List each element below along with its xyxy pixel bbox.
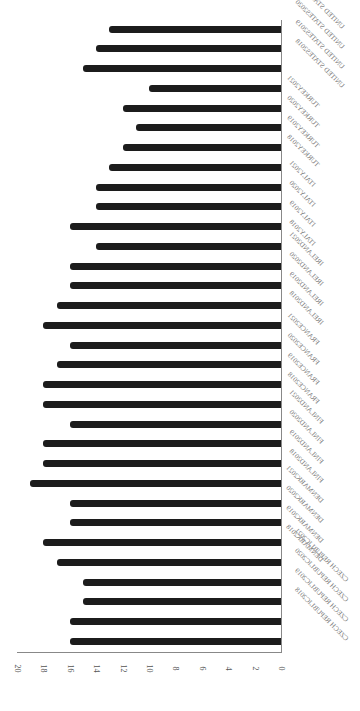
tick-label: 16 [65, 662, 74, 676]
bar [43, 460, 281, 467]
bar [123, 105, 281, 112]
tick-label: 2 [250, 662, 259, 676]
tick-label: 8 [171, 662, 180, 676]
bar [57, 302, 281, 309]
bar [149, 85, 281, 92]
bar [109, 26, 281, 33]
bar [96, 203, 281, 210]
tick-label: 20 [13, 662, 22, 676]
tick-label: 6 [197, 662, 206, 676]
bar [43, 322, 281, 329]
bar [43, 401, 281, 408]
tick-label: 10 [145, 662, 154, 676]
bar [57, 361, 281, 368]
bar [70, 342, 281, 349]
bar [96, 243, 281, 250]
bar [123, 144, 281, 151]
value-axis-line [17, 652, 282, 653]
bar [57, 559, 281, 566]
bar [70, 500, 281, 507]
tick-label: 18 [39, 662, 48, 676]
bar [70, 282, 281, 289]
bar [70, 519, 281, 526]
bar [30, 480, 281, 487]
bar [83, 65, 281, 72]
bar [136, 124, 281, 131]
bar [43, 381, 281, 388]
tick-label: 4 [224, 662, 233, 676]
category-axis-line [281, 20, 282, 652]
bar [96, 184, 281, 191]
tick-label: 12 [118, 662, 127, 676]
bar [43, 440, 281, 447]
bar-chart: CZECH REPUBLIC2018CZECH REPUBLIC2019CZEC… [0, 0, 360, 711]
bar [70, 638, 281, 645]
bar [109, 164, 281, 171]
bar [70, 223, 281, 230]
bar [70, 618, 281, 625]
bar [83, 579, 281, 586]
bar [70, 421, 281, 428]
tick-label: 0 [277, 662, 286, 676]
bar [70, 263, 281, 270]
bar [96, 45, 281, 52]
bar [43, 539, 281, 546]
tick-label: 14 [92, 662, 101, 676]
bar [83, 598, 281, 605]
